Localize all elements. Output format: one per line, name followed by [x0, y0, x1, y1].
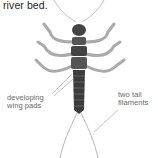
tail-filaments-label: two tail filaments [118, 91, 148, 108]
tail-filaments [60, 113, 98, 158]
body [71, 24, 87, 114]
tail-label-line2: filaments [118, 99, 148, 107]
wing-pads-label-line2: wing pads [7, 102, 44, 110]
leader-lines [52, 74, 118, 132]
antennae [54, 0, 104, 22]
wing-pads-label: developing wing pads [7, 94, 44, 111]
stonefly-nymph-illustration [0, 0, 158, 158]
